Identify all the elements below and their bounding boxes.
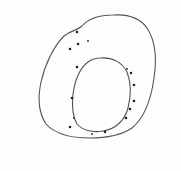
dot-marker	[87, 40, 89, 42]
dot-marker	[133, 100, 136, 103]
dot-marker	[71, 97, 74, 100]
dot-marker	[125, 117, 128, 120]
dot-marker	[76, 31, 79, 34]
dot-marker	[76, 66, 79, 69]
cell-drawing	[0, 0, 181, 171]
dot-marker	[104, 131, 107, 134]
dot-marker	[126, 68, 128, 70]
dot-marker	[129, 108, 132, 111]
dot-marker	[69, 48, 72, 51]
inner-nucleus-ring	[72, 58, 130, 132]
dot-marker	[77, 43, 80, 46]
dot-marker	[133, 84, 136, 87]
dot-marker	[69, 126, 72, 129]
dot-marker	[130, 72, 133, 75]
diagram-canvas	[0, 0, 181, 171]
outer-cell-boundary	[39, 15, 155, 138]
dot-marker	[91, 133, 93, 135]
dot-group	[69, 31, 136, 135]
dot-marker	[73, 117, 75, 119]
